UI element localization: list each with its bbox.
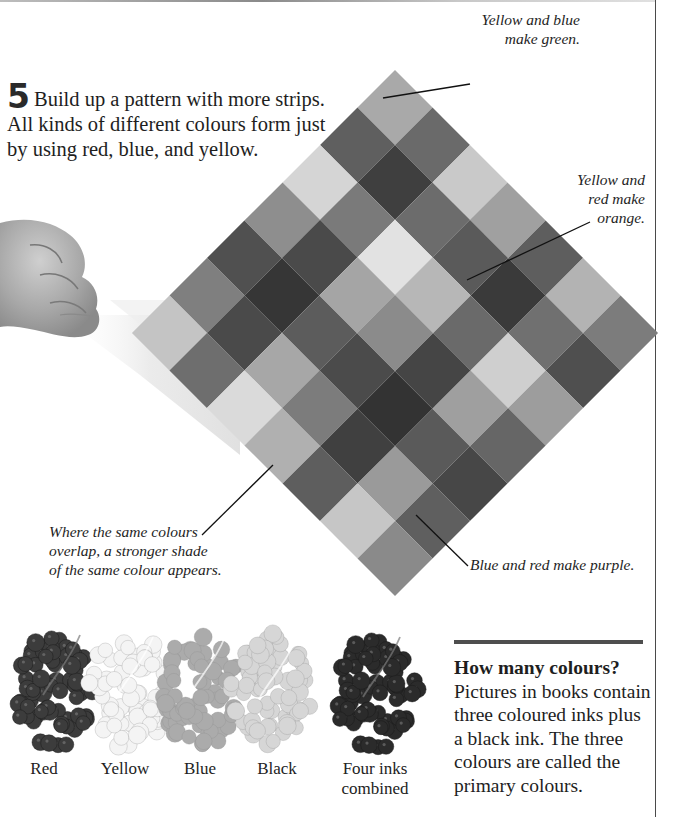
grape-cluster [223,625,318,753]
callout-same-colours: Where the same colours overlap, a strong… [49,522,289,579]
grape-cluster [330,633,426,755]
grape-label-red: Red [14,759,74,779]
grape-label-blue: Blue [170,759,230,779]
info-box-title: How many colours? [454,657,620,678]
grape-label-yellow: Yellow [90,759,160,779]
callout-green: Yellow and blue make green. [430,10,580,48]
grape-ink-separations [0,620,450,760]
callout-purple: Blue and red make purple. [470,555,670,574]
callout-orange: Yellow and red make orange. [540,170,645,227]
info-box: How many colours? Pictures in books cont… [454,656,654,797]
info-box-body: Pictures in books contain three coloured… [454,681,651,796]
grape-label-black: Black [244,759,310,779]
info-box-rule [454,640,643,644]
colour-strip-grid [132,70,658,596]
grape-label-combined: Four inks combined [330,759,420,799]
